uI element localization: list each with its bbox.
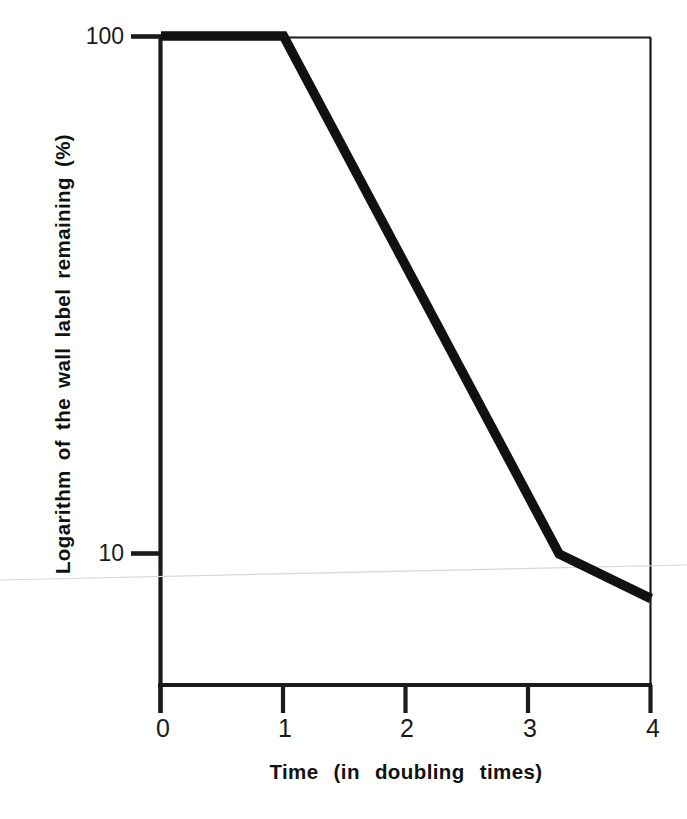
- x-axis-title: Time (in doubling times): [160, 760, 652, 784]
- x-tick-label-0: 0: [148, 716, 178, 741]
- x-tick-label-1: 1: [270, 716, 300, 741]
- data-series-line: [161, 36, 651, 599]
- x-tick-label-3: 3: [515, 716, 545, 741]
- y-axis-title: Logarithm of the wall label remaining (%…: [46, 74, 80, 634]
- x-tick-label-2: 2: [392, 716, 422, 741]
- x-tick-label-4: 4: [638, 716, 668, 741]
- chart-plot-area: [0, 0, 687, 819]
- y-tick-label-100: 100: [62, 25, 124, 48]
- chart-figure: 100 10 0 1 2 3 4 Logarithm of the wall l…: [0, 0, 687, 819]
